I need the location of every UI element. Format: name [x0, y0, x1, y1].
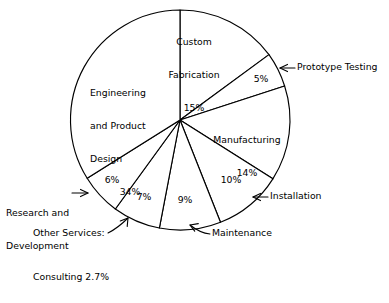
other-services-breakdown-list: Consulting 2.7% Drafting 1.6% Training 1… — [33, 246, 173, 303]
leader-line-research-development — [72, 189, 88, 196]
label-engineering-product-design: Engineering and Product Design 34% — [90, 66, 170, 220]
label-manufacturing-name: Manufacturing — [206, 135, 288, 146]
label-research-development-line1: Research and — [6, 208, 74, 219]
label-other-services-name: Other Services: — [33, 228, 117, 239]
label-installation-pct: 10% — [215, 175, 247, 186]
label-engineering-line2: and Product — [90, 121, 170, 132]
label-manufacturing: Manufacturing 14% — [206, 113, 288, 201]
label-engineering-pct: 34% — [90, 187, 170, 198]
label-maintenance-name: Maintenance — [212, 228, 290, 239]
breakdown-item-consulting: Consulting 2.7% — [33, 271, 173, 283]
label-installation-name: Installation — [270, 191, 340, 202]
label-maintenance-pct: 9% — [172, 195, 198, 206]
label-prototype-testing-pct: 5% — [248, 74, 274, 85]
pie-chart: Custom Fabrication 15% 5% Prototype Test… — [0, 0, 389, 303]
leader-line-prototype-testing — [280, 64, 295, 71]
label-engineering-line1: Engineering — [90, 88, 170, 99]
label-custom-fabrication-line1: Custom — [156, 37, 232, 48]
label-prototype-testing-name: Prototype Testing — [297, 62, 387, 73]
label-engineering-line3: Design — [90, 154, 170, 165]
